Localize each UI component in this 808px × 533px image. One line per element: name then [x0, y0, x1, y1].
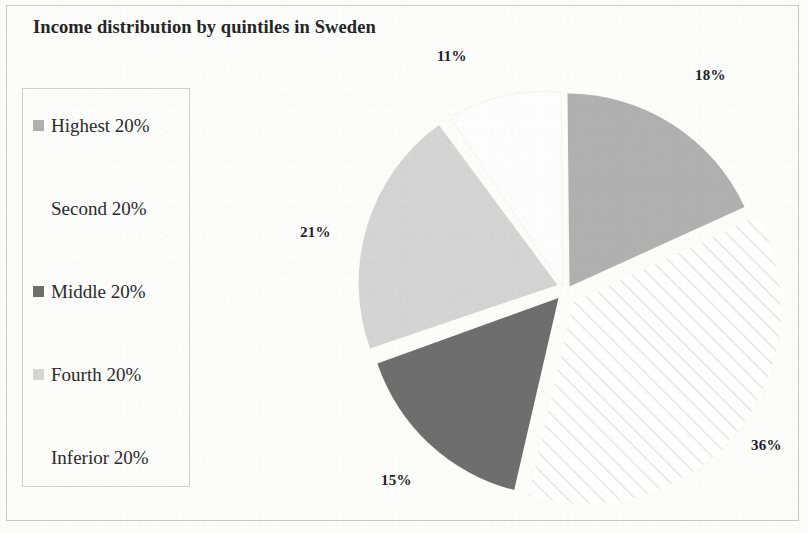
pie-label-fourth: 21%: [300, 224, 331, 241]
legend-label-second: Second 20%: [51, 199, 147, 218]
legend-swatch-second: [33, 203, 44, 214]
chart-page: Income distribution by quintiles in Swed…: [0, 0, 808, 533]
legend-label-middle: Middle 20%: [51, 282, 145, 301]
legend-swatch-fourth: [33, 369, 44, 380]
legend-item-inferior[interactable]: Inferior 20%: [33, 448, 149, 467]
legend-swatch-highest: [33, 120, 44, 131]
pie-label-second: 36%: [751, 437, 782, 454]
legend-label-fourth: Fourth 20%: [51, 365, 141, 384]
chart-legend: Highest 20% Second 20% Middle 20% Fourth…: [22, 88, 190, 487]
legend-item-second[interactable]: Second 20%: [33, 199, 147, 218]
pie-label-middle: 15%: [381, 472, 412, 489]
legend-swatch-middle: [33, 286, 44, 297]
legend-item-fourth[interactable]: Fourth 20%: [33, 365, 141, 384]
pie-label-inferior: 11%: [437, 48, 467, 65]
legend-label-inferior: Inferior 20%: [51, 448, 149, 467]
legend-item-highest[interactable]: Highest 20%: [33, 116, 150, 135]
pie-label-highest: 18%: [695, 67, 726, 84]
chart-title: Income distribution by quintiles in Swed…: [33, 17, 376, 38]
legend-item-middle[interactable]: Middle 20%: [33, 282, 145, 301]
legend-label-highest: Highest 20%: [51, 116, 150, 135]
legend-swatch-inferior: [33, 452, 44, 463]
